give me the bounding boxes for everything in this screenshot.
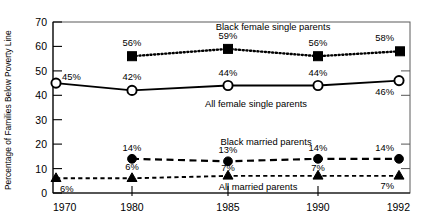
x-tick-label-1990: 1990 [306,201,330,213]
data-point-marker [224,44,233,53]
data-point-marker [395,154,404,163]
series-black-married-parents-line [132,159,399,162]
series-label-all-married-parents: All married parents [219,181,298,192]
data-label: 44% [219,67,238,78]
data-label: 56% [123,37,142,48]
data-label: 58% [375,32,394,43]
y-tick-label-70: 70 [35,16,47,28]
y-tick-label-30: 30 [35,114,47,126]
data-label: 45% [62,71,81,82]
y-tick-label-60: 60 [35,40,47,52]
data-point-marker [127,173,137,182]
series-label-black-female-single-parents: Black female single parents [216,21,331,32]
data-label: 7% [311,162,325,173]
y-tick-label-40: 40 [35,89,47,101]
data-point-marker [127,86,136,95]
data-label: 14% [123,142,142,153]
x-tick-label-1970: 1970 [53,201,77,213]
series-label-black-married-parents: Black married parents [220,136,311,147]
data-label: 44% [309,67,328,78]
x-tick-label-1980: 1980 [120,201,144,213]
data-point-marker [223,81,232,90]
y-tick-label-20: 20 [35,138,47,150]
data-point-marker [313,81,322,90]
data-label: 6% [125,161,139,172]
poverty-line-chart: Percentage of Families Below Poverty Lin… [0,0,427,219]
data-point-marker [51,79,60,88]
data-label: 14% [375,142,394,153]
y-tick-label-10: 10 [35,163,47,175]
data-point-marker [396,47,405,56]
data-point-marker [128,52,137,61]
y-axis-label: Percentage of Families Below Poverty Lin… [3,30,13,190]
series-black-female-single-parents-line [132,49,400,56]
y-tick-label-50: 50 [35,65,47,77]
data-point-marker [314,52,323,61]
data-label: 6% [60,183,74,194]
y-tick-label-0: 0 [41,187,47,199]
x-tick-label-1985: 1985 [216,201,240,213]
data-label: 46% [375,86,394,97]
data-label: 7% [380,180,394,191]
data-label: 42% [123,71,142,82]
series-label-all-female-single-parents: All female single parents [205,98,307,109]
data-label: 7% [221,162,235,173]
data-point-marker [394,170,404,179]
data-label: 56% [309,37,328,48]
x-tick-label-1992: 1992 [387,201,411,213]
data-point-marker [394,76,403,85]
